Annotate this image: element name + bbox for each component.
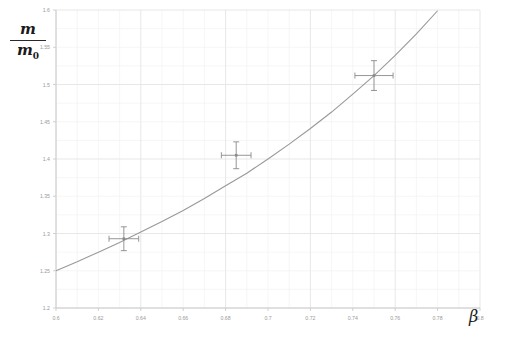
y-tick-label: 1.4 bbox=[43, 156, 50, 162]
y-tick-label: 1.35 bbox=[40, 193, 50, 199]
x-tick-label: 0.68 bbox=[221, 315, 231, 321]
data-point-marker bbox=[373, 74, 376, 77]
x-tick-label: 0.74 bbox=[348, 315, 358, 321]
x-tick-label: 0.6 bbox=[52, 315, 59, 321]
x-tick-label: 0.72 bbox=[305, 315, 315, 321]
plot-area: 0.60.620.640.660.680.70.720.740.760.780.… bbox=[0, 0, 514, 341]
x-tick-label: 0.7 bbox=[264, 315, 271, 321]
y-axis-label-numerator: m bbox=[8, 22, 48, 39]
x-tick-label: 0.64 bbox=[136, 315, 146, 321]
x-tick-label: 0.78 bbox=[433, 315, 443, 321]
x-tick-label: 0.66 bbox=[178, 315, 188, 321]
y-axis-label-denominator-subscript: 0 bbox=[33, 51, 39, 61]
y-tick-label: 1.45 bbox=[40, 119, 50, 125]
y-tick-label: 1.5 bbox=[43, 82, 50, 88]
chart-figure: m m0 β 0.60.620.640.660.680.70.720.740.7… bbox=[0, 0, 514, 341]
data-point-marker bbox=[123, 237, 126, 240]
y-tick-label: 1.3 bbox=[43, 231, 50, 237]
x-axis-label: β bbox=[469, 307, 478, 326]
x-tick-label: 0.76 bbox=[390, 315, 400, 321]
x-axis-tick-labels: 0.60.620.640.660.680.70.720.740.760.780.… bbox=[52, 315, 483, 321]
data-point-with-error-bars bbox=[355, 61, 393, 91]
y-tick-label: 1.2 bbox=[43, 305, 50, 311]
y-axis-label-denominator: m0 bbox=[8, 42, 48, 61]
y-tick-label: 1.25 bbox=[40, 268, 50, 274]
data-point-marker bbox=[235, 154, 238, 157]
x-tick-label: 0.62 bbox=[93, 315, 103, 321]
y-tick-label: 1.6 bbox=[43, 7, 50, 13]
y-axis-label: m m0 bbox=[8, 22, 48, 61]
data-point-with-error-bars bbox=[109, 227, 139, 251]
data-points-with-error-bars bbox=[109, 61, 393, 251]
y-axis-label-denominator-base: m bbox=[17, 41, 33, 59]
